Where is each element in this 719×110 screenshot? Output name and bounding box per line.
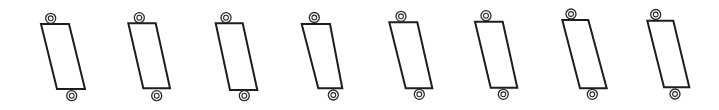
plate-body — [302, 24, 343, 88]
bottom-eyelet-icon — [587, 89, 597, 99]
top-eyelet-icon — [134, 13, 144, 23]
top-eyelet-icon — [651, 10, 661, 20]
eyelet-outer-ring — [498, 89, 508, 99]
eyelet-outer-ring — [309, 13, 319, 23]
eyelet-outer-ring — [328, 90, 338, 100]
eyelet-outer-ring — [396, 11, 406, 21]
top-eyelet-icon — [566, 9, 576, 19]
eyelet-outer-ring — [670, 89, 680, 99]
eyelet-outer-ring — [46, 13, 56, 23]
eyelet-outer-ring — [566, 9, 576, 19]
top-eyelet-icon — [221, 13, 231, 23]
eyelet-outer-ring — [221, 13, 231, 23]
eyelet-outer-ring — [67, 91, 77, 101]
eyelet-outer-ring — [651, 10, 661, 20]
eyelet-outer-ring — [239, 91, 249, 101]
bottom-eyelet-icon — [498, 89, 508, 99]
plate-body — [41, 24, 85, 89]
bottom-eyelet-icon — [414, 89, 424, 99]
plate-7 — [562, 9, 606, 99]
top-eyelet-icon — [396, 11, 406, 21]
plate-1 — [41, 13, 85, 100]
eyelet-outer-ring — [587, 89, 597, 99]
plate-5 — [389, 11, 432, 99]
eyelet-outer-ring — [481, 11, 491, 21]
plates-diagram — [0, 0, 719, 110]
diagram-canvas — [0, 0, 719, 110]
plate-2 — [128, 13, 170, 101]
bottom-eyelet-icon — [67, 91, 77, 101]
plate-body — [389, 22, 432, 88]
plate-body — [475, 22, 517, 88]
bottom-eyelet-icon — [670, 89, 680, 99]
top-eyelet-icon — [481, 11, 491, 21]
plate-8 — [647, 10, 689, 100]
bottom-eyelet-icon — [239, 91, 249, 101]
top-eyelet-icon — [46, 13, 56, 23]
top-eyelet-icon — [309, 13, 319, 23]
plate-body — [128, 23, 170, 88]
plate-4 — [302, 13, 343, 101]
bottom-eyelet-icon — [328, 90, 338, 100]
bottom-eyelet-icon — [152, 91, 162, 101]
eyelet-outer-ring — [134, 13, 144, 23]
eyelet-outer-ring — [414, 89, 424, 99]
plate-body — [647, 21, 689, 88]
plate-6 — [475, 11, 517, 100]
eyelet-outer-ring — [152, 91, 162, 101]
plate-3 — [216, 13, 258, 101]
plate-body — [216, 23, 258, 90]
plate-body — [562, 20, 606, 88]
